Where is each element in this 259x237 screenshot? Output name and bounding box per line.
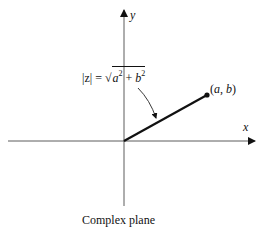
radical-sign: √: [105, 71, 112, 85]
formula-lhs: |z|: [82, 71, 92, 85]
caption: Complex plane: [82, 213, 155, 228]
pointer-arrow: [138, 88, 156, 118]
complex-plane-diagram: [0, 0, 259, 237]
radicand: a2 + b2: [112, 66, 146, 85]
formula-equals: =: [95, 71, 102, 85]
point-label: (a, b): [210, 82, 236, 97]
modulus-formula: |z| = √a2 + b2: [82, 66, 145, 86]
x-axis-label: x: [243, 120, 248, 135]
point-a-b: [204, 92, 209, 97]
modulus-vector: [124, 95, 207, 141]
y-axis-label: y: [130, 8, 135, 23]
